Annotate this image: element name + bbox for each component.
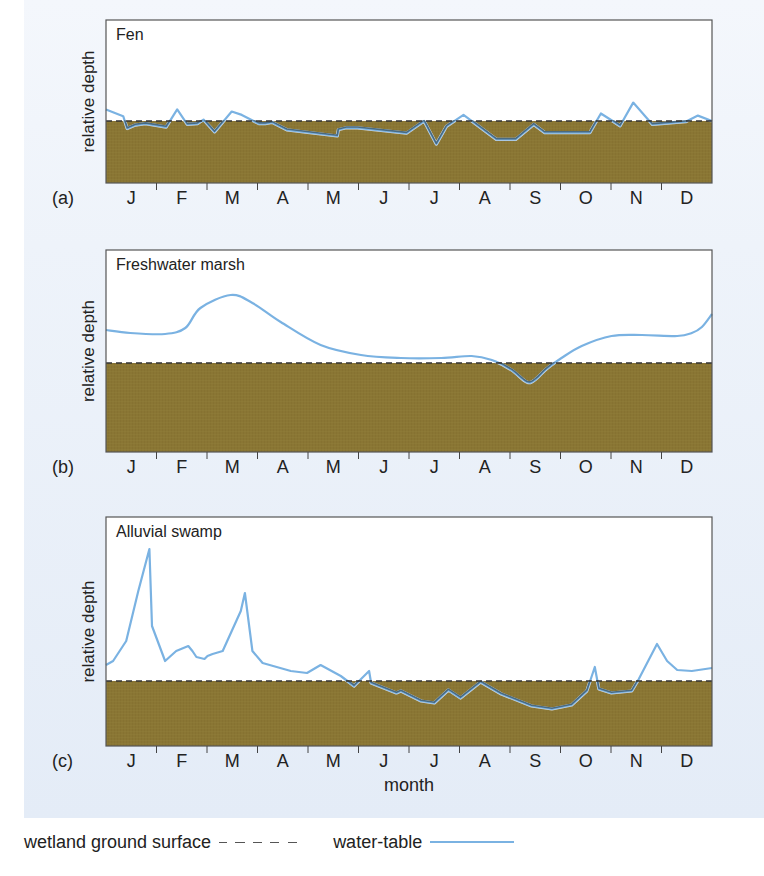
month-label: J — [127, 751, 136, 771]
legend-item-water-table: water-table — [333, 832, 514, 853]
panel-title: Fen — [116, 26, 144, 43]
month-label: M — [326, 188, 341, 208]
month-label: M — [326, 751, 341, 771]
ground-fill — [106, 363, 712, 452]
month-label: J — [430, 751, 439, 771]
month-label: J — [379, 188, 388, 208]
y-axis-label: relative depth — [79, 50, 98, 152]
month-label: O — [579, 751, 593, 771]
panel-alluvial-swamp: JFMAMJJASOND Alluvial swamp (c) relative… — [52, 517, 712, 795]
month-label: N — [630, 188, 643, 208]
month-label: S — [529, 457, 541, 477]
month-label: S — [529, 751, 541, 771]
month-label: S — [529, 188, 541, 208]
panel-title: Alluvial swamp — [116, 523, 222, 540]
panel-label: (b) — [52, 457, 74, 477]
month-label: M — [225, 751, 240, 771]
y-axis-label: relative depth — [79, 580, 98, 682]
month-label: A — [479, 457, 491, 477]
legend-item-ground-surface: wetland ground surface — [24, 832, 333, 853]
month-label: J — [430, 457, 439, 477]
month-label: M — [225, 188, 240, 208]
month-labels: JFMAMJJASOND — [127, 457, 694, 477]
month-label: F — [176, 188, 187, 208]
legend-label-water-table: water-table — [333, 832, 422, 853]
wetland-hydroperiod-figure: JFMAMJJASOND Fen (a) relative depth JFMA… — [0, 0, 764, 876]
month-labels: JFMAMJJASOND — [127, 188, 694, 208]
month-label: A — [479, 188, 491, 208]
panel-label: (a) — [52, 188, 74, 208]
month-label: N — [630, 457, 643, 477]
month-label: D — [680, 457, 693, 477]
legend-label-ground-surface: wetland ground surface — [24, 832, 211, 853]
month-label: F — [176, 751, 187, 771]
month-label: J — [430, 188, 439, 208]
month-label: D — [680, 751, 693, 771]
month-label: F — [176, 457, 187, 477]
blue-line-swatch-icon — [430, 841, 514, 843]
month-label: A — [479, 751, 491, 771]
panel-freshwater-marsh: JFMAMJJASOND Freshwater marsh (b) relati… — [52, 250, 712, 477]
month-label: M — [225, 457, 240, 477]
legend: wetland ground surface water-table — [24, 830, 514, 854]
panel-fen: JFMAMJJASOND Fen (a) relative depth — [52, 20, 712, 208]
y-axis-label: relative depth — [79, 300, 98, 402]
month-label: A — [277, 188, 289, 208]
panel-title: Freshwater marsh — [116, 256, 245, 273]
month-label: J — [379, 457, 388, 477]
month-label: N — [630, 751, 643, 771]
month-label: O — [579, 457, 593, 477]
panel-label: (c) — [52, 751, 73, 771]
month-label: J — [127, 188, 136, 208]
x-axis-label: month — [384, 775, 434, 795]
month-label: D — [680, 188, 693, 208]
month-label: A — [277, 751, 289, 771]
month-label: A — [277, 457, 289, 477]
dashed-line-swatch-icon — [219, 842, 303, 843]
month-labels: JFMAMJJASOND — [127, 751, 694, 771]
month-label: J — [379, 751, 388, 771]
month-label: O — [579, 188, 593, 208]
month-label: M — [326, 457, 341, 477]
month-label: J — [127, 457, 136, 477]
